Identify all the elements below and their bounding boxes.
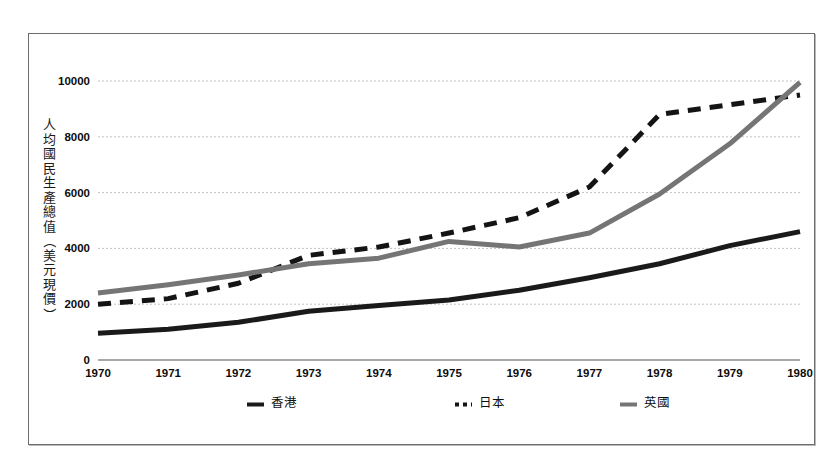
y-tick-label-10000: 10000 bbox=[34, 75, 90, 87]
x-tick-label-1974: 1974 bbox=[366, 367, 392, 379]
legend-swatch-icon bbox=[455, 396, 472, 407]
chart-figure: 人均國民生產總值（美元現價） 0200040006000800010000 19… bbox=[0, 0, 840, 469]
x-tick-label-1972: 1972 bbox=[226, 367, 252, 379]
x-tick-label-1973: 1973 bbox=[296, 367, 322, 379]
legend-swatch-icon bbox=[620, 396, 637, 407]
series-line-hong-kong bbox=[98, 232, 800, 334]
legend-label: 日本 bbox=[479, 392, 505, 411]
legend-label: 英國 bbox=[644, 392, 670, 411]
series-line-united-kingdom bbox=[98, 82, 800, 293]
y-tick-label-4000: 4000 bbox=[34, 242, 90, 254]
legend-item-united-kingdom[interactable]: 英國 bbox=[620, 392, 670, 411]
legend-item-japan[interactable]: 日本 bbox=[455, 392, 505, 411]
x-tick-label-1979: 1979 bbox=[717, 367, 743, 379]
x-tick-label-1970: 1970 bbox=[85, 367, 111, 379]
x-tick-label-1971: 1971 bbox=[155, 367, 181, 379]
x-tick-label-1977: 1977 bbox=[577, 367, 603, 379]
series-line-japan bbox=[98, 95, 800, 304]
x-tick-label-1975: 1975 bbox=[436, 367, 462, 379]
y-tick-label-2000: 2000 bbox=[34, 298, 90, 310]
gridlines bbox=[98, 81, 800, 304]
y-tick-label-6000: 6000 bbox=[34, 187, 90, 199]
series-group bbox=[98, 82, 800, 333]
chart-legend: 香港日本英國 bbox=[0, 392, 840, 414]
legend-label: 香港 bbox=[271, 392, 297, 411]
legend-item-hong-kong[interactable]: 香港 bbox=[247, 392, 297, 411]
x-tick-label-1978: 1978 bbox=[647, 367, 673, 379]
legend-swatch-icon bbox=[247, 396, 264, 407]
y-tick-label-8000: 8000 bbox=[34, 131, 90, 143]
y-tick-label-0: 0 bbox=[34, 354, 90, 366]
x-tick-label-1980: 1980 bbox=[787, 367, 813, 379]
x-tick-label-1976: 1976 bbox=[506, 367, 532, 379]
